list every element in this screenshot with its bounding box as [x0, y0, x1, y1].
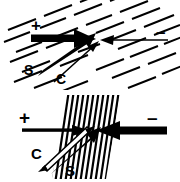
lower-c-label: C [31, 145, 42, 162]
lower-plus-sign: + [19, 107, 30, 128]
lower-s-label: S [65, 162, 75, 179]
figure-canvas: + – S C [0, 0, 180, 182]
shear-sense-figure: + – S C [0, 0, 180, 182]
upper-minus-sign: – [156, 23, 165, 42]
upper-s-label: S [24, 62, 33, 78]
upper-c-label: C [56, 71, 66, 87]
upper-plus-sign: + [31, 16, 41, 35]
lower-minus-sign: – [147, 107, 158, 128]
